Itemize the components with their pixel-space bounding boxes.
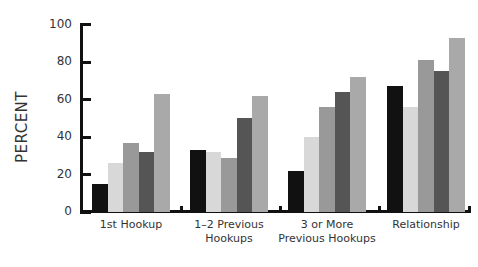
bar [434,71,450,212]
y-tick [80,211,91,214]
y-tick-label: 20 [42,167,72,181]
bar [350,77,366,212]
x-separator-tick [468,206,471,211]
y-axis-line [80,24,83,213]
y-axis-label: PERCENT [13,87,31,167]
y-tick-label: 80 [42,54,72,68]
bar [288,171,304,212]
x-separator-tick [279,206,282,211]
bar [252,96,268,212]
y-tick-label: 100 [42,17,72,31]
bar [449,38,465,212]
bar [108,163,124,212]
bar [304,137,320,212]
bar [387,86,403,212]
bar [335,92,351,212]
y-tick-label: 0 [42,204,72,218]
x-separator-tick [180,206,183,211]
bar [139,152,155,212]
y-tick [80,23,91,26]
y-tick-label: 40 [42,129,72,143]
bar [190,150,206,212]
y-tick-label: 60 [42,92,72,106]
bar [92,184,108,212]
bar-chart: PERCENT 020406080100 1st Hookup1–2 Previ… [0,0,478,267]
bar [154,94,170,212]
y-tick [80,136,91,139]
y-tick [80,173,91,176]
bar [206,152,222,212]
y-tick [80,98,91,101]
bar [237,118,253,212]
bar [123,143,139,212]
bar [319,107,335,212]
x-category-label: Relationship [366,218,478,232]
bar [403,107,419,212]
x-separator-tick [378,206,381,211]
y-tick [80,61,91,64]
bar [418,60,434,212]
bar [221,158,237,212]
